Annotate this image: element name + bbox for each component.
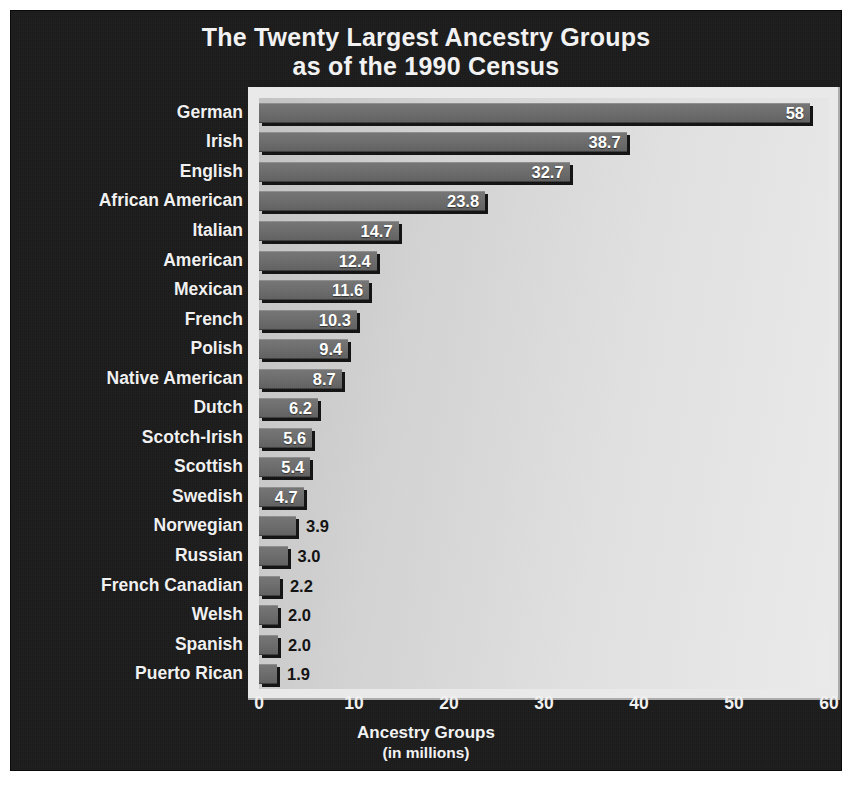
bar: 6.2 — [259, 398, 318, 418]
bar-value-label: 38.7 — [589, 134, 621, 151]
bar-value-label: 9.4 — [319, 341, 342, 358]
bar-value-label: 1.9 — [287, 666, 310, 683]
category-label: Scotch-Irish — [142, 429, 243, 447]
bar: 11.6 — [259, 280, 369, 300]
bar-value-label: 5.6 — [283, 430, 306, 447]
bar: 32.7 — [259, 162, 570, 182]
bar: 12.4 — [259, 251, 377, 271]
x-tick-label: 40 — [629, 695, 648, 713]
bar — [259, 605, 278, 625]
category-label: French Canadian — [101, 577, 243, 595]
bar-value-label: 23.8 — [447, 193, 479, 210]
bar-value-label: 4.7 — [275, 489, 298, 506]
x-tick-label: 50 — [724, 695, 743, 713]
bar: 4.7 — [259, 487, 304, 507]
chart-page: The Twenty Largest Ancestry Groups as of… — [0, 0, 854, 785]
chart-title-line1: The Twenty Largest Ancestry Groups — [202, 23, 651, 51]
category-label: Puerto Rican — [135, 665, 243, 683]
category-label: Dutch — [193, 399, 243, 417]
category-label: Swedish — [172, 488, 243, 506]
chart-title-line2: as of the 1990 Census — [11, 52, 841, 81]
bar-value-label: 58 — [786, 105, 804, 122]
bar-value-label: 14.7 — [361, 223, 393, 240]
x-tick-label: 10 — [344, 695, 363, 713]
bar: 10.3 — [259, 310, 357, 330]
bar: 23.8 — [259, 191, 485, 211]
x-tick-label: 20 — [439, 695, 458, 713]
bar: 8.7 — [259, 369, 342, 389]
plot-frame: 5838.732.723.814.712.411.610.39.48.76.25… — [248, 87, 840, 700]
bar — [259, 635, 278, 655]
category-label: Russian — [175, 547, 243, 565]
x-axis-title: Ancestry Groups (in millions) — [11, 723, 841, 763]
chart-title: The Twenty Largest Ancestry Groups as of… — [11, 23, 841, 81]
bar-value-label: 2.2 — [290, 577, 313, 594]
category-label: Scottish — [174, 458, 243, 476]
bar-value-label: 6.2 — [289, 400, 312, 417]
category-label: Italian — [192, 222, 243, 240]
category-axis-labels: GermanIrishEnglishAfrican AmericanItalia… — [29, 98, 251, 689]
category-label: American — [163, 252, 243, 270]
category-label: French — [185, 311, 243, 329]
bar-value-label: 8.7 — [313, 370, 336, 387]
x-tick-label: 30 — [534, 695, 553, 713]
bar: 5.6 — [259, 428, 312, 448]
bar — [259, 664, 277, 684]
bar-value-label: 2.0 — [288, 607, 311, 624]
bar: 38.7 — [259, 132, 627, 152]
category-label: English — [180, 163, 243, 181]
bar: 14.7 — [259, 221, 399, 241]
category-label: Norwegian — [154, 517, 243, 535]
bar — [259, 516, 296, 536]
category-label: German — [177, 104, 243, 122]
bar-value-label: 32.7 — [532, 164, 564, 181]
bar: 5.4 — [259, 457, 310, 477]
bar-value-label: 5.4 — [281, 459, 304, 476]
category-label: Welsh — [192, 606, 243, 624]
x-axis-title-line1: Ancestry Groups — [357, 723, 495, 742]
bar-value-label: 3.9 — [306, 518, 329, 535]
bar-value-label: 11.6 — [332, 282, 363, 299]
x-axis-ticks: 0102030405060 — [259, 695, 829, 719]
plot-area: 5838.732.723.814.712.411.610.39.48.76.25… — [259, 98, 829, 689]
chart-panel: The Twenty Largest Ancestry Groups as of… — [11, 11, 841, 770]
bar-value-label: 2.0 — [288, 636, 311, 653]
category-label: Spanish — [175, 636, 243, 654]
category-label: Mexican — [174, 281, 243, 299]
x-tick-label: 60 — [819, 695, 838, 713]
category-label: African American — [99, 192, 243, 210]
bar — [259, 576, 280, 596]
category-label: Polish — [190, 340, 243, 358]
bar: 9.4 — [259, 339, 348, 359]
category-label: Irish — [206, 133, 243, 151]
bar: 58 — [259, 103, 810, 123]
bar-value-label: 10.3 — [319, 311, 351, 328]
bar — [259, 546, 288, 566]
category-label: Native American — [107, 370, 244, 388]
bar-value-label: 12.4 — [339, 252, 371, 269]
bar-value-label: 3.0 — [298, 548, 321, 565]
x-tick-label: 0 — [254, 695, 264, 713]
x-axis-title-line2: (in millions) — [11, 743, 841, 763]
